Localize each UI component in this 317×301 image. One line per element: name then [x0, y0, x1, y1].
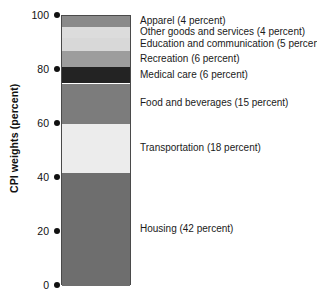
- category-label: Housing (42 percent): [140, 222, 233, 235]
- y-tick-label: 40: [23, 170, 49, 184]
- y-tick-label: 0: [23, 278, 49, 292]
- bar-segment-transportation: [62, 124, 130, 173]
- category-label: Medical care (6 percent): [140, 68, 248, 81]
- y-tick-marker: [54, 120, 60, 126]
- category-label: Transportation (18 percent): [140, 141, 261, 154]
- stacked-bar: [61, 15, 131, 285]
- bar-segment-housing: [62, 173, 130, 286]
- y-tick-20: 20: [22, 224, 60, 238]
- category-label: Education and communication (5 percent): [140, 37, 317, 50]
- y-tick-label: 100: [23, 8, 49, 22]
- y-tick-label: 80: [23, 62, 49, 76]
- cpi-weights-stacked-bar-chart: CPI weights (percent) 020406080100 Appar…: [0, 0, 317, 301]
- bar-segment-education-and-communication: [62, 38, 130, 52]
- y-tick-marker: [54, 282, 60, 288]
- y-tick-label: 20: [23, 224, 49, 238]
- y-tick-40: 40: [22, 170, 60, 184]
- bar-segment-other-goods-and-services: [62, 27, 130, 38]
- y-tick-marker: [54, 228, 60, 234]
- bar-segment-apparel: [62, 16, 130, 27]
- y-tick-100: 100: [22, 8, 60, 22]
- category-label: Food and beverages (15 percent): [140, 96, 288, 109]
- category-label: Recreation (6 percent): [140, 52, 240, 65]
- y-tick-60: 60: [22, 116, 60, 130]
- y-tick-marker: [54, 174, 60, 180]
- y-tick-marker: [54, 12, 60, 18]
- y-tick-marker: [54, 66, 60, 72]
- bar-segment-food-and-beverages: [62, 84, 130, 125]
- y-axis-title: CPI weights (percent): [5, 63, 23, 193]
- y-tick-label: 60: [23, 116, 49, 130]
- y-tick-80: 80: [22, 62, 60, 76]
- category-label: Other goods and services (4 percent): [140, 25, 305, 38]
- bar-segment-medical-care: [62, 67, 130, 83]
- bar-segment-recreation: [62, 51, 130, 67]
- y-tick-0: 0: [22, 278, 60, 292]
